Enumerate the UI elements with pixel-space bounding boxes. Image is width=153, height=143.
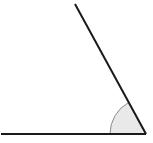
angle-arc-marker — [110, 102, 146, 134]
slanted-ray — [75, 4, 146, 134]
angle-diagram — [0, 0, 153, 143]
